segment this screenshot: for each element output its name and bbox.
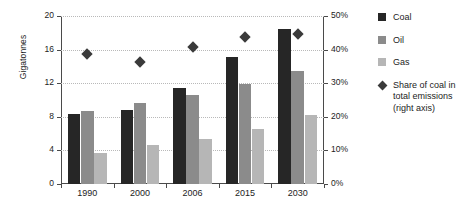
right-axis-tick	[324, 83, 328, 84]
right-axis-tick-label: 0%	[331, 178, 343, 188]
bar-gas-1990	[94, 153, 107, 184]
bar-gas-2000	[147, 145, 160, 184]
oil-swatch	[378, 36, 386, 44]
plot-area: 048121620 0%10%20%30%40%50%	[61, 16, 324, 184]
left-axis-tick-label: 12	[45, 77, 54, 87]
bar-coal-2006	[173, 88, 186, 184]
x-axis-label-2006: 2006	[182, 188, 202, 198]
left-axis-tick	[57, 117, 61, 118]
x-axis-label-2015: 2015	[235, 188, 255, 198]
bar-coal-2000	[121, 110, 134, 184]
bar-gas-2006	[199, 139, 212, 184]
left-axis-tick-label: 4	[49, 144, 54, 154]
bar-oil-2000	[134, 103, 147, 184]
left-axis-tick	[57, 83, 61, 84]
bar-oil-2006	[186, 95, 199, 184]
legend-item-coal[interactable]: Coal	[378, 12, 466, 24]
right-axis-line	[323, 16, 324, 184]
x-axis-label-2030: 2030	[288, 188, 308, 198]
x-axis-tick	[324, 184, 325, 188]
left-axis-line	[61, 16, 62, 184]
x-axis-tick	[219, 184, 220, 188]
bar-gas-2030	[305, 115, 318, 184]
bar-coal-2015	[226, 57, 239, 184]
y-axis-title: Gigatonnes	[18, 12, 28, 102]
legend-item-gas[interactable]: Gas	[378, 57, 466, 69]
bar-gas-2015	[252, 129, 265, 184]
x-axis-label-2000: 2000	[130, 188, 150, 198]
diamond-icon	[378, 80, 388, 90]
legend-label: Coal	[393, 12, 412, 24]
x-axis-tick	[61, 184, 62, 188]
left-axis-tick-label: 20	[45, 10, 54, 20]
bar-oil-1990	[81, 111, 94, 184]
chart-legend: CoalOilGasShare of coal in total emissio…	[378, 12, 466, 125]
bar-group	[278, 16, 317, 184]
right-axis-tick	[324, 16, 328, 17]
left-axis-tick-label: 16	[45, 44, 54, 54]
right-axis-tick-label: 40%	[331, 44, 348, 54]
chart-figure: Gigatonnes 048121620 0%10%20%30%40%50% 1…	[0, 0, 466, 212]
right-axis-tick-label: 30%	[331, 77, 348, 87]
gas-swatch	[378, 58, 386, 66]
x-axis-tick	[114, 184, 115, 188]
bar-group	[68, 16, 107, 184]
bar-oil-2015	[239, 84, 252, 184]
bar-coal-2030	[278, 29, 291, 184]
x-axis-label-1990: 1990	[77, 188, 97, 198]
x-axis-tick	[271, 184, 272, 188]
left-axis-tick	[57, 50, 61, 51]
x-axis-tick	[166, 184, 167, 188]
coal-swatch	[378, 13, 386, 21]
legend-label: Oil	[393, 35, 404, 47]
left-axis-tick-label: 8	[49, 111, 54, 121]
legend-item-share[interactable]: Share of coal in total emissions (right …	[378, 80, 466, 115]
bar-coal-1990	[68, 114, 81, 184]
bar-oil-2030	[291, 71, 304, 184]
right-axis-tick-label: 20%	[331, 111, 348, 121]
left-axis-tick	[57, 150, 61, 151]
right-axis-tick	[324, 150, 328, 151]
right-axis-tick	[324, 50, 328, 51]
legend-item-oil[interactable]: Oil	[378, 35, 466, 47]
right-axis-tick-label: 50%	[331, 10, 348, 20]
left-axis-tick	[57, 16, 61, 17]
left-axis-tick-label: 0	[49, 178, 54, 188]
legend-label: Share of coal in total emissions (right …	[393, 80, 466, 115]
bar-group	[121, 16, 160, 184]
right-axis-tick	[324, 117, 328, 118]
right-axis-tick-label: 10%	[331, 144, 348, 154]
legend-label: Gas	[393, 57, 410, 69]
